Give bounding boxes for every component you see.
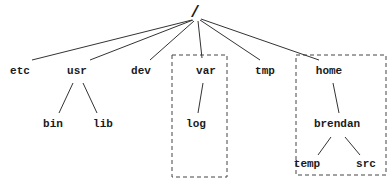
edge-root-home <box>201 19 319 60</box>
node-log: log <box>186 118 206 130</box>
node-etc: etc <box>10 65 30 77</box>
edge-var-log <box>198 83 203 113</box>
node-var: var <box>196 65 216 77</box>
edge-brendan-temp <box>318 137 331 155</box>
node-home: home <box>316 65 343 77</box>
edge-root-usr <box>90 20 193 60</box>
edge-home-brendan <box>333 83 339 113</box>
edge-root-dev <box>150 21 194 60</box>
node-root: / <box>190 4 200 22</box>
node-tmp: tmp <box>255 65 275 77</box>
node-dev: dev <box>131 65 151 77</box>
node-brendan: brendan <box>314 118 360 130</box>
directory-tree-diagram: / etc usr dev var tmp home bin lib log b… <box>0 0 391 185</box>
edge-brendan-src <box>345 137 360 155</box>
node-src: src <box>356 158 376 170</box>
node-temp: temp <box>294 158 321 170</box>
edge-usr-bin <box>59 83 73 113</box>
node-usr: usr <box>67 65 87 77</box>
edge-root-etc <box>32 20 192 60</box>
edge-root-var <box>198 21 202 58</box>
tree-nodes: / etc usr dev var tmp home bin lib log b… <box>10 4 376 170</box>
node-lib: lib <box>93 118 113 130</box>
edge-usr-lib <box>83 83 97 113</box>
edge-root-tmp <box>200 20 260 60</box>
node-bin: bin <box>43 118 63 130</box>
tree-edges <box>32 19 360 155</box>
